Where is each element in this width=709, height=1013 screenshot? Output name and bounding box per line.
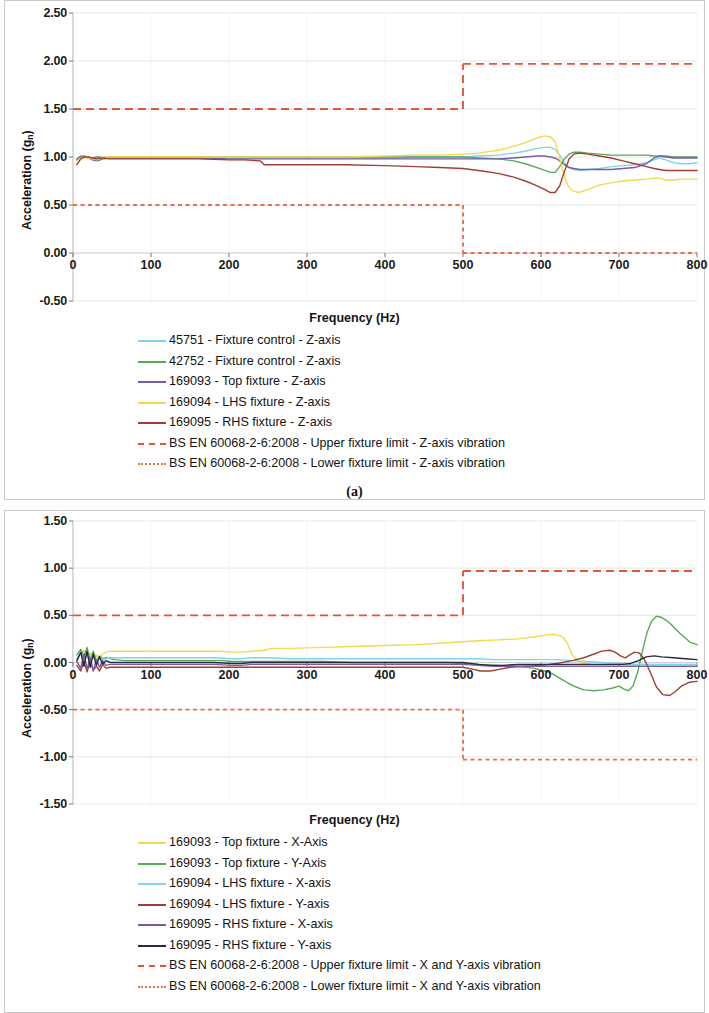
x-tick-label: 100	[129, 669, 173, 681]
legend-swatch-icon	[138, 437, 166, 449]
legend-item[interactable]: 169095 - RHS fixture - Y-axis	[0, 935, 709, 956]
x-tick-label: 800	[675, 259, 709, 271]
x-tick-label: 300	[285, 669, 329, 681]
x-tick-label: 0	[51, 259, 95, 271]
y-tick-label: 1.00	[0, 562, 67, 574]
y-axis-label-tail: )	[20, 130, 34, 134]
x-tick-label: 200	[207, 259, 251, 271]
x-axis-label-text: Frequency (Hz)	[0, 311, 709, 325]
legend-item[interactable]: 45751 - Fixture control - Z-axis	[0, 330, 709, 351]
x-tick-label: 600	[519, 259, 563, 271]
figure-root: -0.500.000.501.001.502.002.50 0100200300…	[0, 0, 709, 1013]
y-tick-label: 0.50	[0, 609, 67, 621]
legend-item-label: 169094 - LHS fixture - X-axis	[169, 876, 331, 890]
legend-item[interactable]: 169094 - LHS fixture - Z-axis	[0, 392, 709, 413]
x-tick-label: 100	[129, 259, 173, 271]
legend-item[interactable]: BS EN 60068-2-6:2008 - Lower fixture lim…	[0, 453, 709, 474]
legend-item[interactable]: 169094 - LHS fixture - Y-axis	[0, 894, 709, 915]
panel-a-tag: (a)	[0, 484, 709, 500]
y-tick-label: 2.00	[0, 55, 67, 67]
x-tick-label: 700	[597, 669, 641, 681]
x-tick-label: 200	[207, 669, 251, 681]
legend-item-label: 169094 - LHS fixture - Y-axis	[169, 897, 329, 911]
legend-item-label: 45751 - Fixture control - Z-axis	[169, 333, 340, 347]
y-axis-label-a: Acceleration (gn)	[20, 130, 35, 230]
legend-item[interactable]: 169093 - Top fixture - Z-axis	[0, 371, 709, 392]
legend-swatch-icon	[138, 375, 166, 387]
x-tick-label: 500	[441, 669, 485, 681]
legend-item[interactable]: 169093 - Top fixture - Y-Axis	[0, 853, 709, 874]
legend-item-label: 169094 - LHS fixture - Z-axis	[169, 395, 330, 409]
x-tick-label: 800	[675, 669, 709, 681]
legend-b: 169093 - Top fixture - X-Axis169093 - To…	[0, 832, 709, 996]
y-tick-label: 1.50	[0, 515, 67, 527]
plot-canvas-b	[73, 521, 697, 804]
legend-item[interactable]: 169095 - RHS fixture - Z-axis	[0, 412, 709, 433]
legend-swatch-icon	[138, 898, 166, 910]
y-tick-label: 2.50	[0, 7, 67, 19]
legend-item-label: 169095 - RHS fixture - Y-axis	[169, 938, 331, 952]
y-tick-label: -0.50	[0, 295, 67, 307]
x-tick-label: 0	[51, 669, 95, 681]
legend-swatch-icon	[138, 836, 166, 848]
legend-a: 45751 - Fixture control - Z-axis42752 - …	[0, 330, 709, 474]
series-line	[77, 136, 697, 193]
x-tick-label: 500	[441, 259, 485, 271]
legend-item-label: BS EN 60068-2-6:2008 - Upper fixture lim…	[169, 958, 541, 972]
legend-swatch-icon	[138, 457, 166, 469]
legend-swatch-icon	[138, 334, 166, 346]
legend-item[interactable]: BS EN 60068-2-6:2008 - Upper fixture lim…	[0, 433, 709, 454]
legend-item-label: BS EN 60068-2-6:2008 - Upper fixture lim…	[169, 436, 505, 450]
legend-item[interactable]: 169094 - LHS fixture - X-axis	[0, 873, 709, 894]
x-tick-label: 600	[519, 669, 563, 681]
y-axis-label-text: Acceleration (g	[20, 648, 34, 738]
y-axis-label-b: Acceleration (gn)	[20, 638, 35, 738]
legend-item-label: 169093 - Top fixture - Y-Axis	[169, 856, 326, 870]
y-tick-label: -1.00	[0, 751, 67, 763]
legend-swatch-icon	[138, 416, 166, 428]
legend-swatch-icon	[138, 980, 166, 992]
legend-item-label: BS EN 60068-2-6:2008 - Lower fixture lim…	[169, 456, 505, 470]
series-line	[77, 634, 697, 664]
x-tick-label: 400	[363, 259, 407, 271]
legend-item-label: 169095 - RHS fixture - X-axis	[169, 917, 333, 931]
y-tick-label: -1.50	[0, 798, 67, 810]
x-tick-label: 400	[363, 669, 407, 681]
legend-item[interactable]: BS EN 60068-2-6:2008 - Lower fixture lim…	[0, 976, 709, 997]
chart-svg-b	[73, 521, 697, 804]
legend-item-label: BS EN 60068-2-6:2008 - Lower fixture lim…	[169, 979, 541, 993]
legend-swatch-icon	[138, 877, 166, 889]
legend-item[interactable]: 169095 - RHS fixture - X-axis	[0, 914, 709, 935]
legend-swatch-icon	[138, 396, 166, 408]
y-axis-label-text: Acceleration (g	[20, 140, 34, 230]
x-axis-label-text: Frequency (Hz)	[0, 813, 709, 827]
y-axis-label-subscript: n	[25, 642, 35, 647]
legend-item-label: 169093 - Top fixture - X-Axis	[169, 835, 328, 849]
legend-item-label: 169093 - Top fixture - Z-axis	[169, 374, 326, 388]
legend-swatch-icon	[138, 857, 166, 869]
y-tick-label: 1.50	[0, 103, 67, 115]
legend-swatch-icon	[138, 918, 166, 930]
y-axis-label-subscript: n	[25, 134, 35, 139]
y-axis-label-tail: )	[20, 638, 34, 642]
legend-item[interactable]: BS EN 60068-2-6:2008 - Upper fixture lim…	[0, 955, 709, 976]
legend-swatch-icon	[138, 355, 166, 367]
y-tick-label: 0.00	[0, 247, 67, 259]
legend-item[interactable]: 42752 - Fixture control - Z-axis	[0, 351, 709, 372]
legend-item-label: 42752 - Fixture control - Z-axis	[169, 354, 340, 368]
chart-panel-b: -1.50-1.00-0.500.000.501.001.50 01002003…	[0, 510, 709, 1013]
plot-area-b	[73, 521, 697, 804]
x-tick-label: 300	[285, 259, 329, 271]
x-tick-label: 700	[597, 259, 641, 271]
legend-item[interactable]: 169093 - Top fixture - X-Axis	[0, 832, 709, 853]
legend-swatch-icon	[138, 939, 166, 951]
legend-item-label: 169095 - RHS fixture - Z-axis	[169, 415, 332, 429]
legend-swatch-icon	[138, 959, 166, 971]
chart-panel-a: -0.500.000.501.001.502.002.50 0100200300…	[0, 0, 709, 500]
